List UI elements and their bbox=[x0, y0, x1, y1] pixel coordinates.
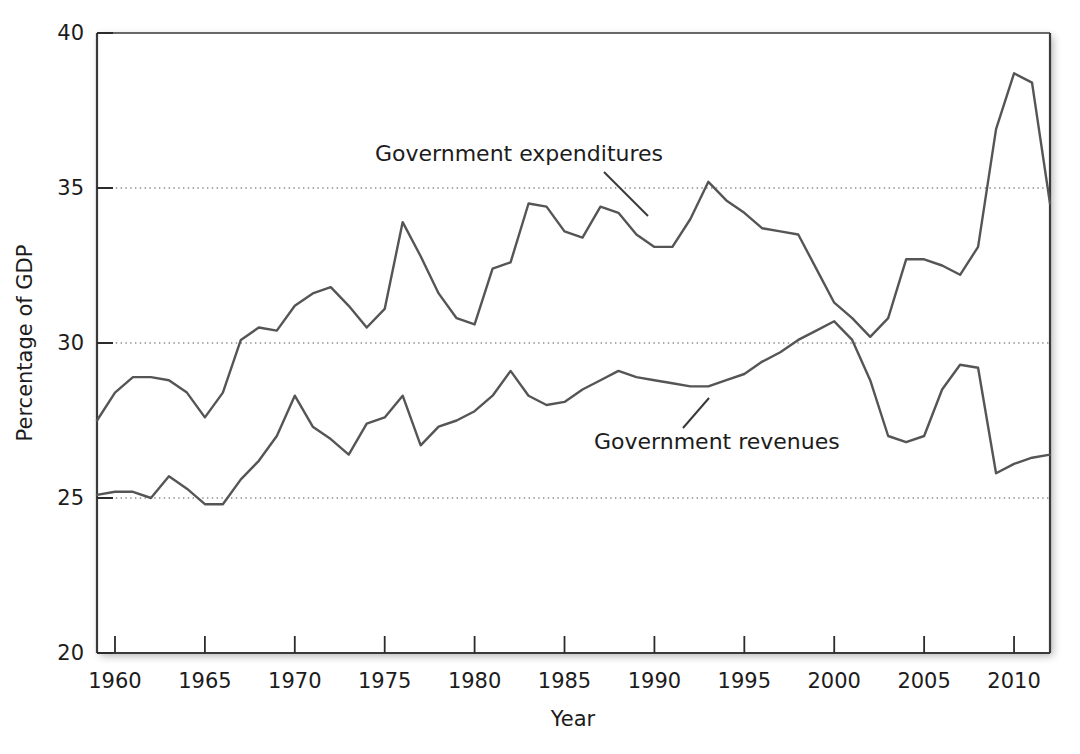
annotation-label-government-revenues: Government revenues bbox=[594, 429, 840, 454]
y-tick-label-25: 25 bbox=[57, 486, 84, 510]
x-tick-label-2010: 2010 bbox=[987, 669, 1040, 693]
x-tick-label-2000: 2000 bbox=[807, 669, 860, 693]
x-tick-label-1975: 1975 bbox=[358, 669, 411, 693]
y-tick-label-40: 40 bbox=[57, 21, 84, 45]
x-tick-label-1990: 1990 bbox=[628, 669, 681, 693]
y-tick-label-30: 30 bbox=[57, 331, 84, 355]
x-axis-title: Year bbox=[550, 707, 596, 731]
y-tick-label-35: 35 bbox=[57, 176, 84, 200]
x-tick-label-1995: 1995 bbox=[718, 669, 771, 693]
x-tick-label-1980: 1980 bbox=[448, 669, 501, 693]
x-tick-label-1985: 1985 bbox=[538, 669, 591, 693]
x-tick-label-1960: 1960 bbox=[88, 669, 141, 693]
y-axis-title: Percentage of GDP bbox=[13, 245, 37, 442]
line-chart: 2025303540 19601965197019751980198519901… bbox=[0, 0, 1080, 754]
x-axis-tick-labels: 1960196519701975198019851990199520002005… bbox=[88, 669, 1041, 693]
y-tick-label-20: 20 bbox=[57, 641, 84, 665]
x-tick-label-1965: 1965 bbox=[178, 669, 231, 693]
x-tick-label-2005: 2005 bbox=[897, 669, 950, 693]
x-tick-label-1970: 1970 bbox=[268, 669, 321, 693]
annotation-label-government-expenditures: Government expenditures bbox=[375, 141, 663, 166]
chart-figure: 2025303540 19601965197019751980198519901… bbox=[0, 0, 1080, 754]
